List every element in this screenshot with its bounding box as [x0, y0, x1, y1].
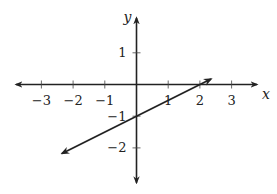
- y-tick-label: −2: [107, 140, 126, 155]
- x-tick-label: −3: [32, 93, 51, 108]
- y-tick-label: −1: [107, 109, 126, 124]
- x-tick-label: 3: [227, 93, 235, 108]
- y-axis-label: y: [123, 9, 133, 25]
- x-tick-label: −2: [64, 93, 83, 108]
- coordinate-plane: −3−2−11231−1−2xy: [0, 0, 277, 194]
- x-axis-label: x: [262, 86, 270, 102]
- y-tick-label: 1: [118, 45, 126, 60]
- x-tick-label: −1: [95, 93, 114, 108]
- x-tick-label: 2: [196, 93, 204, 108]
